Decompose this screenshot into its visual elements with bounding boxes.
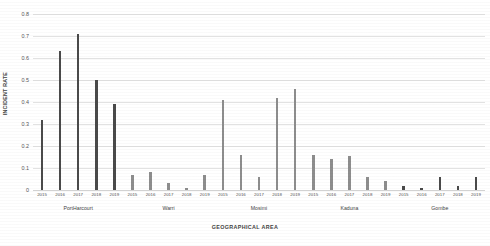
bar[interactable] <box>95 80 98 190</box>
x-axis-year-label: 2015 <box>304 192 322 202</box>
bar[interactable] <box>294 89 297 190</box>
x-axis-year-label: 2019 <box>196 192 214 202</box>
bar-slot <box>105 14 123 190</box>
y-axis-tick-label: 0 <box>26 187 29 193</box>
x-axis-year-label: 2017 <box>250 192 268 202</box>
bar-slot <box>322 14 340 190</box>
bar-group <box>214 14 304 190</box>
x-axis-year-label: 2019 <box>467 192 485 202</box>
bar-group <box>33 14 123 190</box>
x-axis-year-label: 2018 <box>268 192 286 202</box>
bar-slot <box>431 14 449 190</box>
y-axis-tick-label: 0.2 <box>22 143 30 149</box>
bar[interactable] <box>131 175 134 190</box>
bar[interactable] <box>439 177 442 190</box>
x-axis-year-label: 2017 <box>340 192 358 202</box>
bar[interactable] <box>240 155 243 190</box>
bar[interactable] <box>330 159 333 190</box>
bar-chart: INCIDENT RATE 0.80.70.60.50.40.30.20.10 … <box>0 0 490 246</box>
bar[interactable] <box>185 188 188 190</box>
bar-slot <box>141 14 159 190</box>
y-axis-tick-label: 0.6 <box>22 55 30 61</box>
y-axis-tick-label: 0.1 <box>22 165 30 171</box>
bar-slot <box>467 14 485 190</box>
bar[interactable] <box>167 183 170 190</box>
bar-slot <box>69 14 87 190</box>
x-axis-area-label: Mosimi <box>214 205 304 215</box>
bar-slot <box>340 14 358 190</box>
bar-group <box>395 14 485 190</box>
bar[interactable] <box>402 186 405 190</box>
bar-slot <box>87 14 105 190</box>
bar[interactable] <box>384 181 387 190</box>
y-axis-tick-label: 0.8 <box>22 11 30 17</box>
y-axis-tick-label: 0.7 <box>22 33 30 39</box>
x-axis-year-label: 2015 <box>395 192 413 202</box>
x-axis-area-label: Gombe <box>395 205 485 215</box>
bar-slot <box>358 14 376 190</box>
bar[interactable] <box>258 177 261 190</box>
gridline: 0 <box>33 190 485 191</box>
bar-slot <box>377 14 395 190</box>
y-axis-tick-label: 0.5 <box>22 77 30 83</box>
x-axis-year-label: 2016 <box>232 192 250 202</box>
bar[interactable] <box>366 177 369 190</box>
bar-slot <box>196 14 214 190</box>
x-axis-area-label: PortHarcourt <box>33 205 123 215</box>
bar-slot <box>178 14 196 190</box>
bar-group <box>123 14 213 190</box>
x-tick-group: 20152016201720182019 <box>123 192 213 202</box>
y-axis-title: INCIDENT RATE <box>2 72 16 115</box>
bar-slot <box>304 14 322 190</box>
x-tick-group: 20152016201720182019 <box>395 192 485 202</box>
x-axis-year-label: 2016 <box>413 192 431 202</box>
bar[interactable] <box>457 186 460 190</box>
bar-slot <box>413 14 431 190</box>
x-axis-year-label: 2015 <box>33 192 51 202</box>
bar[interactable] <box>41 120 44 190</box>
plot-area: 0.80.70.60.50.40.30.20.10 <box>33 14 485 190</box>
bar[interactable] <box>113 104 116 190</box>
y-axis-tick-label: 0.4 <box>22 99 30 105</box>
x-tick-group: 20152016201720182019 <box>33 192 123 202</box>
bar[interactable] <box>475 177 478 190</box>
bar-slot <box>33 14 51 190</box>
bar-slot <box>214 14 232 190</box>
x-axis-year-label: 2018 <box>87 192 105 202</box>
x-axis-title: GEOGRAPHICAL AREA <box>0 224 490 230</box>
bar-slot <box>286 14 304 190</box>
x-axis-year-label: 2018 <box>178 192 196 202</box>
bar-slot <box>268 14 286 190</box>
x-axis-year-label: 2015 <box>123 192 141 202</box>
x-axis-year-label: 2018 <box>358 192 376 202</box>
x-tick-group: 20152016201720182019 <box>304 192 394 202</box>
bar-slot <box>449 14 467 190</box>
bar[interactable] <box>149 172 152 190</box>
x-axis-year-label: 2016 <box>51 192 69 202</box>
x-axis-year-label: 2017 <box>69 192 87 202</box>
x-axis-year-label: 2017 <box>160 192 178 202</box>
bar-slot <box>123 14 141 190</box>
bar[interactable] <box>312 155 315 190</box>
bar-slot <box>250 14 268 190</box>
x-axis-group-labels: PortHarcourtWarriMosimiKadunaGombe <box>33 205 485 215</box>
x-axis-tick-labels: 2015201620172018201920152016201720182019… <box>33 192 485 202</box>
x-tick-group: 20152016201720182019 <box>214 192 304 202</box>
bar[interactable] <box>348 156 351 190</box>
x-axis-year-label: 2017 <box>431 192 449 202</box>
x-axis-year-label: 2018 <box>449 192 467 202</box>
bar-series-container <box>33 14 485 190</box>
bar[interactable] <box>222 100 225 190</box>
x-axis-year-label: 2016 <box>141 192 159 202</box>
x-axis-year-label: 2019 <box>105 192 123 202</box>
bar-slot <box>395 14 413 190</box>
y-axis-tick-label: 0.3 <box>22 121 30 127</box>
bar[interactable] <box>59 51 62 190</box>
x-axis-area-label: Warri <box>123 205 213 215</box>
x-axis-year-label: 2019 <box>377 192 395 202</box>
bar[interactable] <box>276 98 279 190</box>
bar[interactable] <box>77 34 80 190</box>
bar[interactable] <box>420 188 423 190</box>
bar[interactable] <box>203 175 206 190</box>
bar-slot <box>160 14 178 190</box>
